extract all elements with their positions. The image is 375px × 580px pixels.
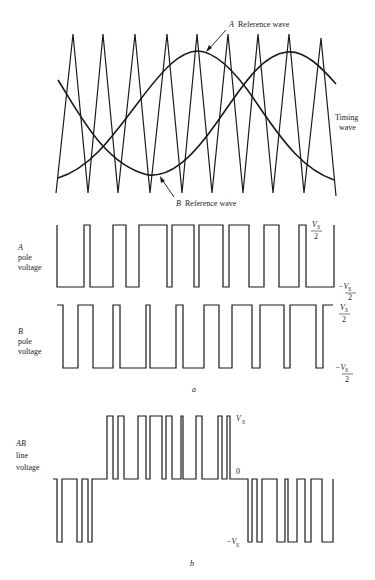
a-pole-low-level-label: −V S 2 [338, 282, 356, 302]
b-pole-low-level-label: −V S 2 [335, 363, 353, 384]
a-ref-label: Reference wave [238, 20, 290, 29]
a-pole-waveform [57, 225, 334, 287]
timing-label-1: Timing [335, 113, 358, 122]
caption-a: a [192, 385, 196, 394]
caption-b: b [190, 559, 194, 568]
b-pole-label-3: voltage [18, 347, 42, 356]
a-pole-label-3: voltage [18, 263, 42, 272]
svg-text:2: 2 [348, 293, 352, 302]
svg-text:2: 2 [345, 375, 349, 384]
svg-text:S: S [242, 419, 245, 425]
a-pole-high-level-label: V S 2 [311, 220, 322, 241]
b-pole-high-level-label: V S 2 [339, 303, 350, 324]
ab-high-level-label: V S [236, 414, 245, 425]
a-reference-arrow [206, 30, 226, 52]
b-ref-label: Reference wave [185, 199, 237, 208]
svg-text:S: S [317, 224, 320, 230]
ab-low-level-label: −V S [226, 537, 239, 548]
ab-label-3: voltage [16, 463, 40, 472]
timing-label-2: wave [339, 123, 356, 132]
a-pole-label-2: pole [18, 253, 32, 262]
a-ref-letter: A [228, 20, 234, 29]
svg-text:S: S [236, 542, 239, 548]
svg-text:S: S [348, 286, 351, 292]
ab-line-waveform [53, 416, 333, 542]
b-ref-letter: B [176, 199, 181, 208]
svg-text:S: S [345, 307, 348, 313]
svg-text:2: 2 [342, 315, 346, 324]
b-pole-label-letter: B [18, 327, 23, 336]
ab-label-2: line [16, 451, 28, 460]
pwm-diagram: A Reference wave B Reference wave Timing… [0, 0, 375, 580]
b-reference-arrow [160, 176, 174, 197]
svg-text:S: S [345, 367, 348, 373]
ab-label-letter: AB [15, 439, 26, 448]
b-pole-label-2: pole [18, 337, 32, 346]
b-pole-waveform [57, 305, 333, 368]
timing-wave [56, 34, 336, 196]
svg-text:2: 2 [314, 232, 318, 241]
a-pole-label-letter: A [17, 243, 23, 252]
ab-zero-label: 0 [236, 467, 240, 476]
